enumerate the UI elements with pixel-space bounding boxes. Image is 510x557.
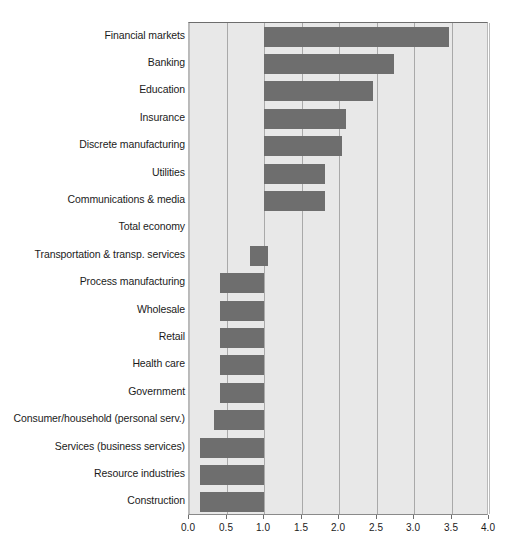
- tick-mark: [301, 515, 302, 519]
- bar: [200, 492, 264, 512]
- bar: [264, 109, 346, 129]
- category-label: Communications & media: [2, 194, 185, 205]
- category-label: Discrete manufacturing: [2, 139, 185, 150]
- category-label: Transportation & transp. services: [2, 249, 185, 260]
- tick-mark: [451, 515, 452, 519]
- bar: [220, 273, 264, 293]
- x-tick-label: 1.5: [285, 522, 317, 533]
- category-label: Banking: [2, 57, 185, 68]
- bar: [200, 438, 264, 458]
- x-tick-label: 3.5: [435, 522, 467, 533]
- bar: [220, 355, 264, 375]
- plot-area: [188, 22, 488, 515]
- category-label: Health care: [2, 358, 185, 369]
- x-tick-label: 0.5: [210, 522, 242, 533]
- tick-mark: [226, 515, 227, 519]
- x-tick-label: 4.0: [472, 522, 504, 533]
- bar: [220, 328, 264, 348]
- gridline-4.0: [489, 23, 490, 514]
- bar: [264, 54, 394, 74]
- category-label: Insurance: [2, 112, 185, 123]
- x-tick-label: 0.0: [172, 522, 204, 533]
- x-tick-label: 2.0: [322, 522, 354, 533]
- category-label: Utilities: [2, 167, 185, 178]
- category-label: Total economy: [2, 221, 185, 232]
- x-tick-label: 1.0: [247, 522, 279, 533]
- bar: [264, 81, 373, 101]
- tick-mark: [188, 515, 189, 519]
- x-axis: 0.00.51.01.52.02.53.03.54.0: [188, 515, 488, 545]
- bar: [200, 465, 264, 485]
- category-label: Services (business services): [2, 441, 185, 452]
- category-label: Resource industries: [2, 468, 185, 479]
- category-label: Wholesale: [2, 304, 185, 315]
- bar: [264, 27, 449, 47]
- bar-chart: Financial marketsBankingEducationInsuran…: [0, 0, 510, 557]
- category-axis-labels: Financial marketsBankingEducationInsuran…: [0, 0, 185, 557]
- bar: [220, 301, 264, 321]
- category-label: Government: [2, 386, 185, 397]
- category-label: Retail: [2, 331, 185, 342]
- category-label: Construction: [2, 495, 185, 506]
- bar: [264, 191, 325, 211]
- x-tick-label: 2.5: [360, 522, 392, 533]
- bar: [220, 383, 264, 403]
- tick-mark: [376, 515, 377, 519]
- category-label: Consumer/household (personal serv.): [2, 413, 185, 424]
- x-tick-label: 3.0: [397, 522, 429, 533]
- tick-mark: [488, 515, 489, 519]
- category-label: Education: [2, 84, 185, 95]
- category-label: Financial markets: [2, 30, 185, 41]
- category-label: Process manufacturing: [2, 276, 185, 287]
- bar: [264, 164, 325, 184]
- bar: [264, 136, 342, 156]
- bar: [214, 410, 264, 430]
- tick-mark: [413, 515, 414, 519]
- bar: [250, 246, 268, 266]
- tick-mark: [338, 515, 339, 519]
- bars-layer: [189, 23, 487, 514]
- tick-mark: [263, 515, 264, 519]
